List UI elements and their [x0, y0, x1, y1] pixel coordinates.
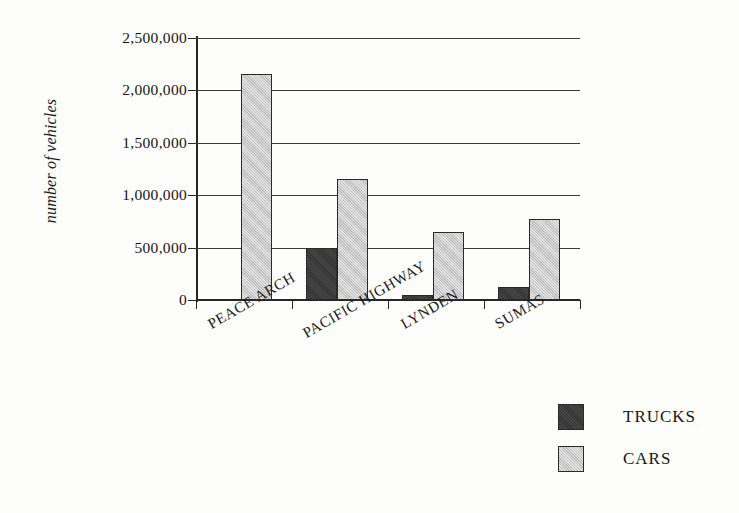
- bar-sumas-cars: [529, 219, 560, 300]
- y-axis-tick-label: 2,500,000: [122, 29, 187, 47]
- plot-area: 0500,0001,000,0001,500,0002,000,0002,500…: [196, 38, 580, 300]
- x-axis-tick: [484, 300, 485, 309]
- chart-legend: TRUCKSCARS: [558, 396, 696, 480]
- y-axis-tick: [188, 38, 196, 39]
- x-axis-tick: [196, 300, 197, 309]
- bar-chart-figure: number of vehicles 0500,0001,000,0001,50…: [0, 0, 739, 513]
- bar-peace-arch-cars: [241, 74, 272, 300]
- y-axis-tick-label: 0: [179, 291, 187, 309]
- legend-item-trucks: TRUCKS: [558, 396, 696, 438]
- x-axis-tick: [292, 300, 293, 309]
- legend-swatch-trucks: [558, 404, 584, 430]
- y-axis-tick: [188, 90, 196, 91]
- x-axis-tick: [388, 300, 389, 309]
- y-axis-tick-label: 1,000,000: [122, 186, 187, 204]
- y-axis-tick: [188, 300, 196, 301]
- legend-item-cars: CARS: [558, 438, 696, 480]
- legend-swatch-cars: [558, 446, 584, 472]
- x-axis-tick: [580, 300, 581, 309]
- bar-pacific-highway-trucks: [306, 248, 337, 300]
- gridline: [196, 38, 580, 39]
- y-axis-tick: [188, 248, 196, 249]
- y-axis-tick-label: 1,500,000: [122, 133, 187, 151]
- y-axis-tick: [188, 143, 196, 144]
- y-axis-title: number of vehicles: [42, 71, 60, 251]
- y-axis-tick: [188, 195, 196, 196]
- legend-label-trucks: TRUCKS: [623, 407, 696, 427]
- legend-label-cars: CARS: [623, 449, 671, 469]
- y-axis-tick-label: 2,000,000: [122, 81, 187, 99]
- y-axis-tick-label: 500,000: [135, 238, 187, 256]
- bar-pacific-highway-cars: [337, 179, 368, 300]
